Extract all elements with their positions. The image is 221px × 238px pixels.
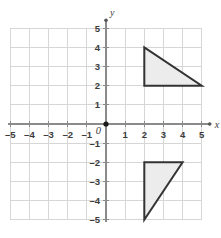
y-axis-label: y bbox=[109, 7, 115, 18]
x-axis-tick-label: 5 bbox=[199, 129, 205, 140]
y-axis-tick-label: 5 bbox=[95, 23, 101, 34]
y-axis-tick-label: 1 bbox=[95, 99, 101, 110]
y-axis-arrow-icon bbox=[104, 18, 108, 22]
coordinate-plane-svg: –5–4–3–2–11234554321–1–2–3–4–50xy bbox=[0, 0, 221, 238]
x-axis-tick-label: 3 bbox=[161, 129, 166, 140]
x-axis-tick-label: –4 bbox=[24, 129, 35, 140]
x-axis-arrow-icon bbox=[208, 122, 212, 126]
x-axis-label: x bbox=[214, 119, 220, 130]
y-axis-tick-label: –1 bbox=[89, 138, 100, 149]
y-axis-tick-label: 4 bbox=[95, 42, 101, 53]
y-axis-tick-label: –4 bbox=[89, 195, 100, 206]
y-axis-tick-label: –5 bbox=[89, 214, 100, 225]
y-axis-tick-label: 2 bbox=[95, 80, 100, 91]
coordinate-plane-figure: –5–4–3–2–11234554321–1–2–3–4–50xy bbox=[0, 0, 221, 238]
y-axis-tick-label: –3 bbox=[89, 176, 100, 187]
x-axis-tick-label: –5 bbox=[5, 129, 16, 140]
x-axis-tick-label: –3 bbox=[43, 129, 54, 140]
origin-label: 0 bbox=[96, 125, 102, 136]
y-axis-tick-label: 3 bbox=[95, 61, 100, 72]
y-axis-tick-label: –2 bbox=[89, 157, 100, 168]
origin-point-marker bbox=[103, 121, 108, 126]
x-axis-tick-label: 2 bbox=[142, 129, 147, 140]
x-axis-tick-label: –2 bbox=[62, 129, 73, 140]
x-axis-tick-label: 4 bbox=[180, 129, 186, 140]
x-axis-tick-label: 1 bbox=[123, 129, 129, 140]
